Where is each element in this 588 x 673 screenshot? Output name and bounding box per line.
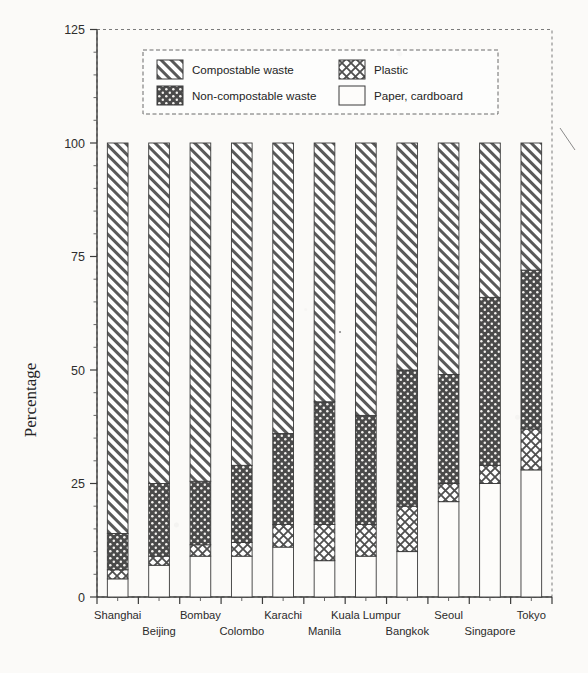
bar-stack xyxy=(397,143,418,597)
bar-segment xyxy=(273,547,294,597)
bar-segment xyxy=(107,570,128,579)
bar-segment xyxy=(190,481,211,545)
x-axis-category-label: Bombay xyxy=(180,609,221,621)
x-axis-category-label: Seoul xyxy=(434,609,463,621)
bar-segment xyxy=(149,565,170,597)
bar-segment xyxy=(397,506,418,551)
bar-segment xyxy=(314,561,335,597)
x-axis-category-label: Singapore xyxy=(464,625,515,637)
y-tick-label: 25 xyxy=(71,477,85,491)
legend-label: Plastic xyxy=(374,63,408,76)
legend-swatch xyxy=(339,86,365,105)
bar-segment xyxy=(397,552,418,597)
bar-stack xyxy=(107,143,128,597)
stray-scan-speck xyxy=(339,331,341,333)
x-axis-category-label: Beijing xyxy=(142,625,176,637)
bar-segment xyxy=(231,556,252,597)
bar-segment xyxy=(231,143,252,465)
y-tick-label: 100 xyxy=(64,137,85,151)
bar-segment xyxy=(273,434,294,525)
bar-stack xyxy=(480,143,501,597)
bar-segment xyxy=(438,484,459,502)
stray-scan-mark xyxy=(560,128,575,150)
bar-stack xyxy=(273,143,294,597)
bar-segment xyxy=(231,465,252,542)
x-axis-category-label: Shanghai xyxy=(94,609,141,621)
bar-segment xyxy=(107,579,128,597)
legend-label: Compostable waste xyxy=(192,63,294,76)
x-axis-category-label: Kuala Lumpur xyxy=(331,609,401,621)
bar-segment xyxy=(521,270,542,429)
legend-label: Paper, cardboard xyxy=(374,89,463,102)
y-tick-label: 75 xyxy=(71,250,85,264)
bar-segment xyxy=(397,370,418,506)
bar-segment xyxy=(149,556,170,565)
bar-stack xyxy=(521,143,542,597)
bar-segment xyxy=(231,543,252,557)
bar-stack xyxy=(231,143,252,597)
y-tick-label: 0 xyxy=(78,591,85,605)
bar-segment xyxy=(521,470,542,597)
bar-stack xyxy=(356,143,377,597)
bar-segment xyxy=(356,143,377,415)
legend-label: Non-compostable waste xyxy=(192,89,316,102)
bar-segment xyxy=(356,524,377,556)
x-axis-category-label: Bangkok xyxy=(385,625,429,637)
waste-composition-chart: 0255075100125PercentageShanghaiBeijingBo… xyxy=(0,0,588,673)
bar-segment xyxy=(521,429,542,470)
bar-segment xyxy=(480,484,501,598)
bar-segment xyxy=(438,502,459,597)
bar-segment xyxy=(438,375,459,484)
bar-segment xyxy=(149,484,170,557)
chart-canvas: 0255075100125PercentageShanghaiBeijingBo… xyxy=(0,0,588,673)
bar-stack xyxy=(314,143,335,597)
x-axis-labels: ShanghaiBeijingBombayColomboKarachiManil… xyxy=(94,609,546,637)
bar-stack xyxy=(149,143,170,597)
bar-segment xyxy=(480,143,501,297)
bar-segment xyxy=(273,524,294,547)
x-axis-category-label: Karachi xyxy=(264,609,302,621)
bar-segment xyxy=(480,465,501,483)
bar-segment xyxy=(190,143,211,481)
x-axis-category-label: Colombo xyxy=(219,625,264,637)
bars-group xyxy=(107,143,541,597)
legend: Compostable wastePlasticNon-compostable … xyxy=(143,50,498,114)
bar-segment xyxy=(107,533,128,569)
bar-stack xyxy=(190,143,211,597)
bar-segment xyxy=(314,143,335,402)
bar-segment xyxy=(314,402,335,525)
legend-swatch xyxy=(157,60,183,79)
bar-segment xyxy=(356,415,377,524)
bar-segment xyxy=(521,143,542,270)
bar-segment xyxy=(480,297,501,465)
bar-segment xyxy=(356,556,377,597)
bar-segment xyxy=(438,143,459,375)
bar-segment xyxy=(314,524,335,560)
bar-segment xyxy=(107,143,128,533)
y-tick-label: 125 xyxy=(64,23,85,37)
x-axis-category-label: Manila xyxy=(308,625,342,637)
y-axis-title: Percentage xyxy=(21,363,40,438)
y-tick-label: 50 xyxy=(71,364,85,378)
bar-segment xyxy=(190,545,211,556)
bar-stack xyxy=(438,143,459,597)
bar-segment xyxy=(273,143,294,434)
y-axis: 0255075100125 xyxy=(64,23,97,605)
bar-segment xyxy=(397,143,418,370)
legend-swatch xyxy=(157,86,183,105)
bar-segment xyxy=(149,143,170,484)
x-ticks xyxy=(97,597,552,604)
bar-segment xyxy=(190,556,211,597)
legend-swatch xyxy=(339,60,365,79)
x-axis-category-label: Tokyo xyxy=(517,609,546,621)
legend-box xyxy=(143,50,498,114)
